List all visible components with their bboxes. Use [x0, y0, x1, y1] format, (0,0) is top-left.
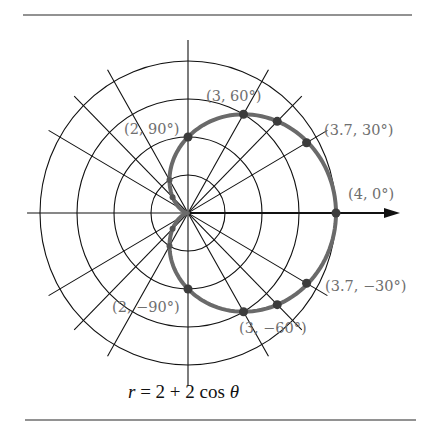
point-marker-icon — [167, 243, 173, 249]
label-2-neg90: (2, −90°) — [112, 299, 180, 315]
point-marker-icon — [273, 300, 282, 309]
point-marker-icon — [170, 194, 176, 200]
point-marker-icon — [239, 110, 248, 119]
point-marker-icon — [332, 209, 341, 218]
point-marker-icon — [239, 307, 248, 316]
label-3.7-neg30: (3.7, −30°) — [325, 278, 406, 294]
point-marker-icon — [302, 279, 311, 288]
equation-caption: r = 2 + 2 cos θ — [128, 381, 239, 402]
label-3-neg60: (3, −60°) — [239, 320, 307, 336]
label-3.7-30: (3.7, 30°) — [324, 122, 393, 138]
polar-cardioid-figure: (4, 0°) (3.7, 30°) (3, 60°) (2, 90°) (2,… — [0, 0, 436, 426]
point-marker-icon — [184, 133, 193, 142]
equation-theta: θ — [230, 381, 239, 402]
point-marker-icon — [167, 177, 173, 183]
label-3-60: (3, 60°) — [206, 88, 261, 104]
point-marker-icon — [170, 226, 176, 232]
label-4-0: (4, 0°) — [348, 186, 394, 202]
point-marker-icon — [184, 285, 193, 294]
point-marker-icon — [273, 117, 282, 126]
polar-axis-arrowhead-icon — [384, 208, 400, 218]
point-marker-icon — [302, 138, 311, 147]
label-2-90: (2, 90°) — [124, 121, 179, 137]
equation-body: = 2 + 2 cos — [135, 381, 229, 402]
